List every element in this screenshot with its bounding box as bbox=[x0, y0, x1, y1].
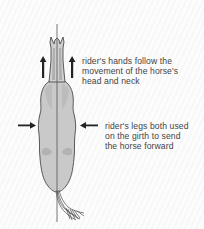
legs-annotation-line-3: the horse forward bbox=[105, 141, 189, 151]
legs-annotation-line-2: on the girth to send bbox=[105, 131, 189, 141]
hands-annotation-line-3: head and neck bbox=[82, 76, 178, 86]
legs-annotation: rider's legs both used on the girth to s… bbox=[105, 121, 189, 151]
hands-annotation-line-1: rider's hands follow the bbox=[82, 56, 178, 66]
legs-annotation-line-1: rider's legs both used bbox=[105, 121, 189, 131]
horse-tail bbox=[56, 190, 84, 220]
arrow-up-left-icon bbox=[40, 56, 47, 78]
horse-diagram bbox=[0, 0, 204, 229]
arrow-left-icon bbox=[80, 122, 98, 129]
arrow-up-right-icon bbox=[69, 56, 76, 78]
hands-annotation-line-2: movement of the horse's bbox=[82, 66, 178, 76]
hands-annotation: rider's hands follow the movement of the… bbox=[82, 56, 178, 86]
horse-illustration bbox=[38, 37, 84, 220]
arrow-right-icon bbox=[18, 122, 36, 129]
